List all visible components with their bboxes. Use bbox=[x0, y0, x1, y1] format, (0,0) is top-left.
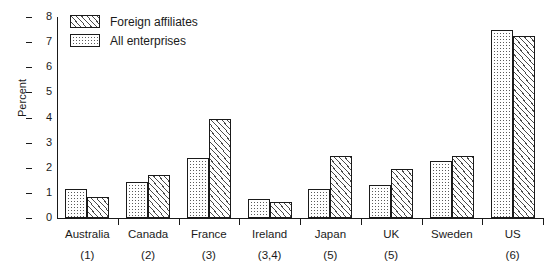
y-axis-tick-label: 0 bbox=[22, 211, 52, 223]
x-axis-separator bbox=[179, 218, 180, 225]
y-axis-tick-label: 1 bbox=[22, 186, 52, 198]
x-axis-separator bbox=[361, 218, 362, 225]
bar bbox=[65, 189, 87, 218]
x-axis-separator bbox=[543, 218, 544, 225]
legend-swatch bbox=[70, 34, 100, 47]
bar bbox=[126, 182, 148, 218]
x-axis-category-footnote: (6) bbox=[468, 249, 555, 261]
y-axis-tick-mark bbox=[26, 143, 32, 144]
bar bbox=[209, 119, 231, 218]
bar bbox=[308, 189, 330, 218]
x-axis-separator bbox=[482, 218, 483, 225]
y-axis-tick-mark bbox=[26, 168, 32, 169]
bar bbox=[369, 185, 391, 218]
x-axis-separator bbox=[300, 218, 301, 225]
legend-swatch bbox=[70, 15, 100, 28]
legend-entry: Foreign affiliates bbox=[70, 12, 198, 31]
bar bbox=[87, 197, 109, 218]
y-axis-tick-label: 7 bbox=[22, 35, 52, 47]
bar bbox=[248, 199, 270, 218]
y-axis-tick-label: 3 bbox=[22, 136, 52, 148]
bar bbox=[513, 36, 535, 218]
y-axis-tick-mark bbox=[26, 67, 32, 68]
bar-group bbox=[430, 17, 474, 218]
y-axis-tick-label: 8 bbox=[22, 10, 52, 22]
y-axis-tick-mark bbox=[26, 218, 32, 219]
y-axis-tick-mark bbox=[26, 42, 32, 43]
bar bbox=[148, 175, 170, 218]
x-axis-separator bbox=[239, 218, 240, 225]
x-axis-separator bbox=[118, 218, 119, 225]
bar bbox=[452, 156, 474, 218]
bar-group bbox=[369, 17, 413, 218]
x-axis-category-footnote: (5) bbox=[346, 249, 436, 261]
legend: Foreign affiliatesAll enterprises bbox=[70, 12, 198, 50]
bar bbox=[187, 158, 209, 218]
x-axis-separator bbox=[422, 218, 423, 225]
bar bbox=[330, 156, 352, 218]
y-axis-tick-mark bbox=[26, 92, 32, 93]
legend-entry: All enterprises bbox=[70, 31, 198, 50]
y-axis-tick-label: 5 bbox=[22, 85, 52, 97]
bar-group bbox=[308, 17, 352, 218]
y-axis-tick-mark bbox=[26, 17, 32, 18]
y-axis-tick-mark bbox=[26, 193, 32, 194]
y-axis-tick-mark bbox=[26, 118, 32, 119]
y-axis-tick-label: 6 bbox=[22, 60, 52, 72]
bar bbox=[391, 169, 413, 218]
y-axis-tick-label: 4 bbox=[22, 111, 52, 123]
bar-group bbox=[248, 17, 292, 218]
bar bbox=[491, 30, 513, 218]
bar bbox=[270, 202, 292, 218]
y-axis-tick-label: 2 bbox=[22, 161, 52, 173]
legend-label: All enterprises bbox=[110, 34, 186, 48]
legend-label: Foreign affiliates bbox=[110, 15, 198, 29]
bar bbox=[430, 161, 452, 218]
x-axis-category-label: US bbox=[468, 228, 555, 240]
bar-group bbox=[491, 17, 535, 218]
bar-chart: Percent 012345678 Australia(1)Canada(2)F… bbox=[0, 0, 555, 271]
